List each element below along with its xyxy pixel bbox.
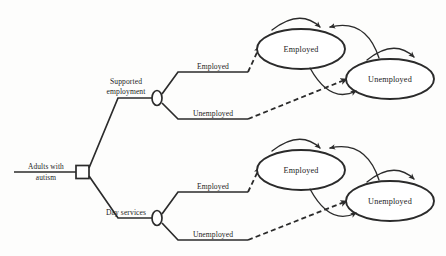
root-label-line2: autism (36, 173, 56, 182)
state-employed-label: Employed (284, 166, 319, 175)
strategy-label-line2: employment (107, 87, 147, 96)
strategy-connectors (89, 98, 155, 218)
state-unemployed-label: Unemployed (368, 75, 412, 84)
strategy-label-line1: Supported (110, 77, 142, 86)
state-employed-label: Employed (284, 45, 319, 54)
branch-label-employed: Employed (197, 182, 229, 191)
dashed-link-unemployed (248, 79, 347, 119)
diagram-canvas: Adults with autism Supported employment … (0, 0, 446, 256)
branch-label-unemployed: Unemployed (193, 109, 233, 118)
markov-model-supported-employment: Employed Unemployed (257, 18, 434, 99)
strategy-label-line1: Day services (106, 208, 146, 217)
state-unemployed-label: Unemployed (368, 197, 412, 206)
branch-label-unemployed: Unemployed (193, 230, 233, 239)
decision-tree-diagram: Adults with autism Supported employment … (0, 0, 446, 256)
chance-node-circle[interactable] (152, 211, 162, 226)
branch-label-employed: Employed (197, 62, 229, 71)
chance-node-circle[interactable] (152, 91, 162, 106)
decision-node-square[interactable] (76, 166, 89, 179)
root-label-line1: Adults with (28, 162, 64, 171)
markov-model-day-services: Employed Unemployed (257, 139, 434, 221)
dashed-link-unemployed (248, 201, 347, 240)
